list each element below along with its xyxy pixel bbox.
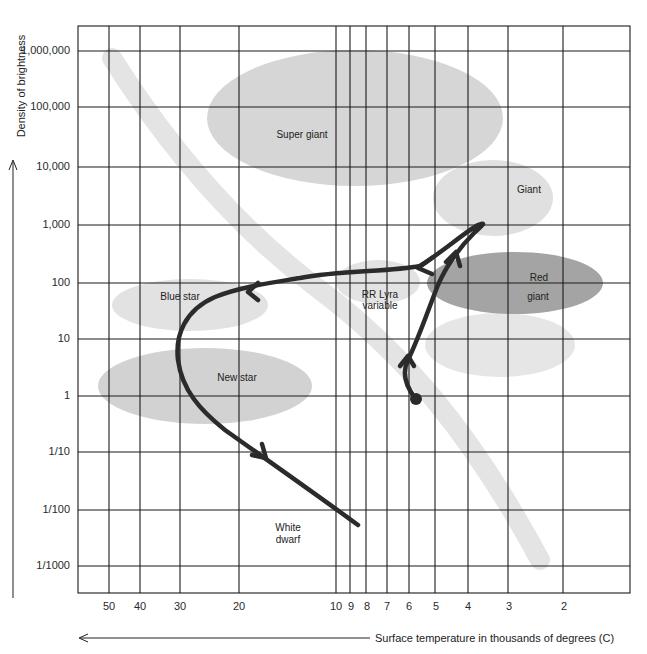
y-tick-label: 100,000 bbox=[30, 100, 70, 112]
y-tick-label: 10 bbox=[58, 332, 70, 344]
y-tick-label: 1/10 bbox=[49, 445, 70, 457]
y-tick-label: 1,000 bbox=[42, 218, 70, 230]
x-tick-label: 40 bbox=[134, 600, 146, 612]
region-lower-giant-branch bbox=[425, 313, 575, 377]
x-tick-label: 20 bbox=[233, 600, 245, 612]
label-new-star: New star bbox=[217, 372, 256, 384]
y-tick-label: 1/100 bbox=[42, 503, 70, 515]
x-tick-label: 2 bbox=[561, 600, 567, 612]
label-red-giant-line2: giant bbox=[527, 291, 549, 303]
y-tick-label: 100 bbox=[52, 276, 70, 288]
x-tick-label: 7 bbox=[384, 600, 390, 612]
y-tick-label: 1,000,000 bbox=[21, 44, 70, 56]
arrow-left-1 bbox=[418, 258, 432, 274]
label-blue-star: Blue star bbox=[160, 291, 199, 303]
label-white-dwarf-line1: White bbox=[275, 522, 301, 534]
x-tick-label: 9 bbox=[348, 600, 354, 612]
label-rr-lyra-line2: variable bbox=[362, 300, 397, 312]
start-point bbox=[410, 393, 422, 405]
label-super-giant: Super giant bbox=[276, 129, 327, 141]
label-red-giant-line1: Red bbox=[530, 272, 548, 284]
x-tick-label: 6 bbox=[406, 600, 412, 612]
label-giant: Giant bbox=[517, 184, 541, 196]
y-tick-label: 10,000 bbox=[36, 160, 70, 172]
x-tick-label: 50 bbox=[103, 600, 115, 612]
x-tick-label: 4 bbox=[465, 600, 471, 612]
x-tick-label: 10 bbox=[330, 600, 342, 612]
x-tick-label: 8 bbox=[364, 600, 370, 612]
x-tick-label: 3 bbox=[506, 600, 512, 612]
x-axis-title: Surface temperature in thousands of degr… bbox=[375, 632, 614, 644]
x-tick-label: 5 bbox=[433, 600, 439, 612]
label-white-dwarf-line2: dwarf bbox=[276, 534, 300, 546]
hr-diagram bbox=[0, 0, 647, 654]
y-tick-label: 1/1000 bbox=[36, 559, 70, 571]
y-tick-label: 1 bbox=[64, 389, 70, 401]
x-tick-label: 30 bbox=[174, 600, 186, 612]
region-super-giant bbox=[207, 50, 503, 186]
